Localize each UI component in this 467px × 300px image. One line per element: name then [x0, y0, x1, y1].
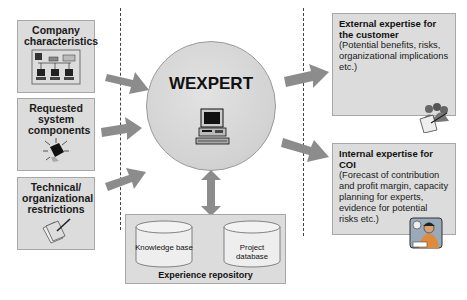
store-project-database: Project database	[223, 220, 281, 268]
people-document-icon	[417, 103, 451, 133]
arrow-input-2	[100, 116, 144, 142]
wexpert-hub: WEXPERT	[146, 41, 276, 171]
input-company-characteristics: Company characteristics	[17, 20, 95, 93]
desktop-computer-icon	[195, 108, 231, 146]
arrow-output-1	[283, 63, 331, 91]
consultant-person-icon	[409, 217, 443, 249]
store-label: Knowledge base	[135, 243, 193, 252]
repository-title: Experience repository	[126, 270, 285, 280]
experience-repository: Knowledge base Project database Experien…	[125, 214, 286, 284]
input-technical-organizational-restrictions: Technical/ organizational restrictions	[17, 177, 95, 250]
input-label: Requested system components	[18, 103, 94, 136]
store-knowledge-base: Knowledge base	[135, 220, 193, 268]
input-requested-system-components: Requested system components	[17, 98, 95, 171]
chip-component-icon	[41, 137, 71, 163]
output-title: Internal expertise for COI	[339, 148, 449, 170]
output-description: (Potential benefits, risks, organization…	[339, 40, 449, 73]
network-computers-icon	[31, 49, 81, 85]
arrow-input-1	[105, 68, 151, 96]
arrow-hub-repository	[200, 170, 222, 216]
arrow-input-3	[104, 165, 148, 195]
separator-right	[303, 8, 304, 236]
output-external-expertise: External expertise for the customer (Pot…	[332, 13, 456, 116]
output-title: External expertise for the customer	[339, 18, 449, 40]
hub-title: WEXPERT	[147, 74, 275, 94]
arrow-output-2	[281, 135, 331, 165]
input-label: Company characteristics	[18, 25, 94, 47]
documents-pen-icon	[39, 216, 73, 244]
input-label: Technical/ organizational restrictions	[18, 182, 94, 215]
store-label: Project database	[223, 243, 281, 261]
